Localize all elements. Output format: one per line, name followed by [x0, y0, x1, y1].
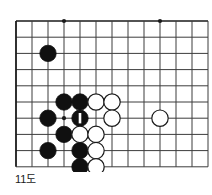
black-stone[interactable] — [72, 110, 88, 126]
move-marker-icon — [79, 113, 82, 123]
stone-disc — [40, 110, 56, 126]
white-stone[interactable] — [88, 159, 104, 172]
white-stone[interactable] — [152, 110, 168, 126]
stone-disc — [56, 126, 72, 142]
go-board-svg — [0, 0, 212, 172]
stone-disc — [104, 94, 120, 110]
white-stone[interactable] — [104, 110, 120, 126]
black-stone[interactable] — [40, 45, 56, 61]
black-stone[interactable] — [72, 94, 88, 110]
stone-disc — [88, 126, 104, 142]
figure-caption: 11도 — [15, 172, 36, 186]
stone-disc — [88, 142, 104, 158]
black-stone[interactable] — [40, 110, 56, 126]
black-stone[interactable] — [40, 142, 56, 158]
stones-layer — [40, 45, 168, 172]
stone-disc — [72, 142, 88, 158]
star-point — [158, 19, 162, 23]
stone-disc — [56, 94, 72, 110]
star-point — [62, 19, 66, 23]
white-stone[interactable] — [104, 94, 120, 110]
white-stone[interactable] — [88, 126, 104, 142]
star-point — [62, 116, 66, 120]
stone-disc — [152, 110, 168, 126]
stone-disc — [40, 45, 56, 61]
figure-container: 11도 — [0, 0, 212, 195]
black-stone[interactable] — [56, 126, 72, 142]
white-stone[interactable] — [72, 126, 88, 142]
white-stone[interactable] — [88, 94, 104, 110]
stone-disc — [72, 126, 88, 142]
stone-disc — [104, 110, 120, 126]
stone-disc — [40, 142, 56, 158]
white-stone[interactable] — [88, 142, 104, 158]
stone-disc — [72, 94, 88, 110]
stone-disc — [72, 159, 88, 172]
black-stone[interactable] — [72, 142, 88, 158]
stone-disc — [88, 94, 104, 110]
black-stone[interactable] — [72, 159, 88, 172]
black-stone[interactable] — [56, 94, 72, 110]
go-board — [0, 0, 212, 172]
stone-disc — [88, 159, 104, 172]
